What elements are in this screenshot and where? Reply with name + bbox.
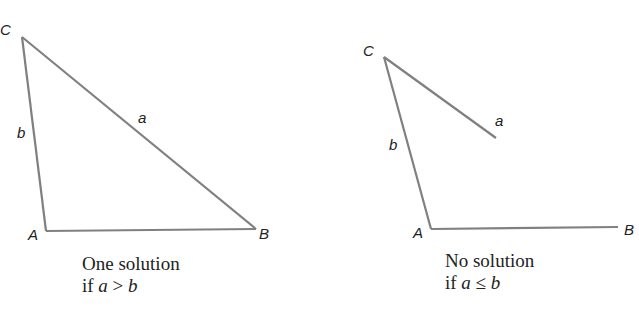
left-triangle: C A B b a [0, 21, 269, 243]
side-b-left [22, 37, 46, 231]
side-label-a-right: a [495, 112, 503, 129]
caption-right-operator: ≤ [471, 272, 491, 293]
vertex-label-a-left: A [27, 226, 38, 243]
side-c-right [431, 227, 618, 229]
side-c-left [46, 229, 256, 231]
side-label-b-left: b [17, 124, 25, 141]
caption-right-prefix: if [445, 272, 461, 293]
caption-left-var-a: a [98, 275, 108, 296]
caption-left-operator: > [108, 275, 128, 296]
side-a-right [384, 57, 496, 138]
side-label-a-left: a [138, 109, 146, 126]
caption-right-line1: No solution [445, 250, 534, 272]
right-figure: C A B b a [363, 42, 634, 241]
caption-right: No solution if a ≤ b [445, 250, 534, 294]
vertex-label-c-left: C [0, 21, 11, 38]
caption-left-prefix: if [82, 275, 98, 296]
caption-left-line2: if a > b [82, 275, 180, 297]
caption-right-var-a: a [461, 272, 471, 293]
caption-left-line1: One solution [82, 253, 180, 275]
caption-left-var-b: b [128, 275, 138, 296]
caption-right-var-b: b [491, 272, 501, 293]
side-label-b-right: b [389, 136, 397, 153]
caption-left: One solution if a > b [82, 253, 180, 297]
vertex-label-c-right: C [363, 42, 374, 59]
vertex-label-b-left: B [259, 225, 269, 242]
caption-right-line2: if a ≤ b [445, 272, 534, 294]
vertex-label-a-right: A [412, 224, 423, 241]
vertex-label-b-right: B [624, 221, 634, 238]
side-a-left [22, 37, 256, 229]
